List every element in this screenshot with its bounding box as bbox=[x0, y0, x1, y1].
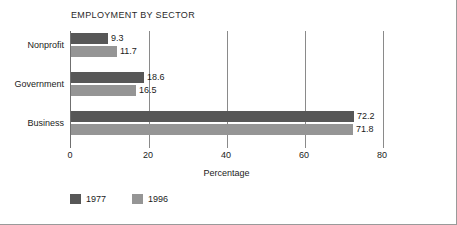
chart-title: EMPLOYMENT BY SECTOR bbox=[71, 10, 195, 20]
legend-swatch-icon bbox=[132, 194, 143, 204]
bar-1996-government[interactable] bbox=[71, 85, 136, 96]
xtick-label-40: 40 bbox=[221, 150, 231, 160]
xtick-label-60: 60 bbox=[299, 150, 309, 160]
legend-label: 1996 bbox=[148, 194, 168, 204]
bar-row: 18.6 bbox=[71, 72, 165, 83]
bar-1977-nonprofit[interactable] bbox=[71, 33, 108, 44]
bar-1977-government[interactable] bbox=[71, 72, 144, 83]
bar-1996-business[interactable] bbox=[71, 124, 353, 135]
bar-value-label: 11.7 bbox=[117, 46, 137, 57]
bar-group-government: 18.6 16.5 bbox=[71, 72, 457, 96]
legend-label: 1977 bbox=[86, 194, 106, 204]
legend-item-1996[interactable]: 1996 bbox=[132, 194, 168, 204]
bar-value-label: 9.3 bbox=[108, 33, 124, 44]
bar-row: 16.5 bbox=[71, 85, 157, 96]
bar-value-label: 18.6 bbox=[144, 72, 165, 83]
bar-row: 9.3 bbox=[71, 33, 124, 44]
legend-swatch-icon bbox=[70, 194, 81, 204]
bar-value-label: 72.2 bbox=[354, 111, 375, 122]
legend-item-1977[interactable]: 1977 bbox=[70, 194, 106, 204]
bar-value-label: 16.5 bbox=[136, 85, 157, 96]
chart-figure: EMPLOYMENT BY SECTOR 9.3 11.7 18.6 16.5 bbox=[0, 0, 457, 225]
category-label-nonprofit: Nonprofit bbox=[0, 40, 64, 50]
plot-area: 9.3 11.7 18.6 16.5 72.2 71.8 bbox=[70, 31, 384, 148]
xtick-label-80: 80 bbox=[377, 150, 387, 160]
xtick-label-20: 20 bbox=[143, 150, 153, 160]
bar-row: 11.7 bbox=[71, 46, 137, 57]
bar-group-nonprofit: 9.3 11.7 bbox=[71, 33, 457, 57]
bar-1977-business[interactable] bbox=[71, 111, 354, 122]
bar-group-business: 72.2 71.8 bbox=[71, 111, 457, 135]
x-axis-title: Percentage bbox=[70, 168, 383, 178]
xtick-label-0: 0 bbox=[67, 150, 72, 160]
bar-row: 72.2 bbox=[71, 111, 375, 122]
bar-value-label: 71.8 bbox=[353, 124, 374, 135]
bar-row: 71.8 bbox=[71, 124, 374, 135]
category-label-government: Government bbox=[0, 79, 64, 89]
category-label-business: Business bbox=[0, 118, 64, 128]
chart-legend: 1977 1996 bbox=[70, 194, 168, 204]
bar-1996-nonprofit[interactable] bbox=[71, 46, 117, 57]
